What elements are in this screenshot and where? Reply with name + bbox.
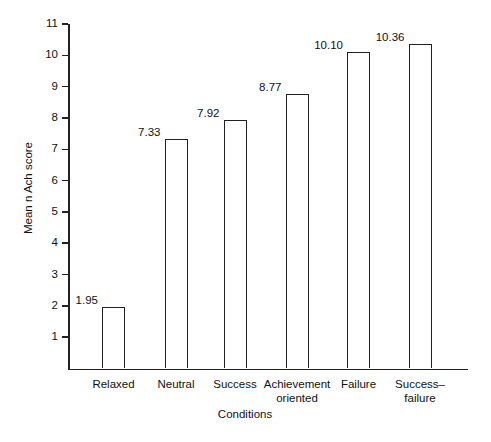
- plot-area: 1234567891011 1.957.337.928.7710.1010.36…: [0, 0, 491, 442]
- bar-value-label: 10.36: [367, 32, 405, 43]
- y-tick-label: 8: [32, 112, 58, 123]
- bar-value-label: 7.33: [123, 127, 161, 138]
- y-tick-mark: [62, 86, 68, 88]
- y-tick-label: 3: [32, 269, 58, 280]
- bar-value-label: 7.92: [182, 108, 220, 119]
- bar: [224, 120, 247, 368]
- y-tick-mark: [62, 55, 68, 57]
- x-axis-title: Conditions: [185, 408, 305, 420]
- y-tick-label: 2: [32, 300, 58, 311]
- y-tick-mark: [62, 336, 68, 338]
- y-tick-label: 5: [32, 206, 58, 217]
- y-tick-mark: [62, 211, 68, 213]
- x-axis-line: [68, 369, 468, 371]
- y-tick-mark: [62, 274, 68, 276]
- y-tick-mark: [62, 180, 68, 182]
- bar: [347, 52, 370, 368]
- bar: [165, 139, 188, 369]
- y-tick-mark: [62, 149, 68, 151]
- bar-value-label: 8.77: [244, 82, 282, 93]
- bar: [409, 44, 432, 368]
- y-tick-label: 7: [32, 143, 58, 154]
- bar-chart: 1234567891011 1.957.337.928.7710.1010.36…: [0, 0, 491, 442]
- y-tick-label: 1: [32, 331, 58, 342]
- y-tick-mark: [62, 242, 68, 244]
- bar: [102, 307, 125, 368]
- y-tick-label: 10: [32, 49, 58, 60]
- bar-value-label: 1.95: [60, 295, 98, 306]
- bar: [286, 94, 309, 369]
- y-tick-mark: [62, 23, 68, 25]
- y-tick-mark: [62, 117, 68, 119]
- y-axis-title: Mean n Ach score: [22, 118, 34, 258]
- y-tick-label: 4: [32, 237, 58, 248]
- y-tick-label: 9: [32, 81, 58, 92]
- bar-value-label: 10.10: [305, 40, 343, 51]
- y-tick-label: 6: [32, 175, 58, 186]
- y-axis-line: [68, 24, 70, 370]
- x-axis-category-label: Success– failure: [375, 378, 465, 405]
- y-tick-label: 11: [32, 18, 58, 29]
